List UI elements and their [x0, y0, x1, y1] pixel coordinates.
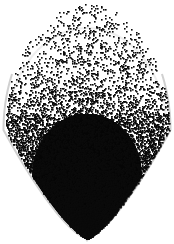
point-cloud-canvas: [0, 0, 174, 244]
scatter-plot-figure: Point Cloud Density Scatter Monochrome t…: [0, 0, 174, 244]
